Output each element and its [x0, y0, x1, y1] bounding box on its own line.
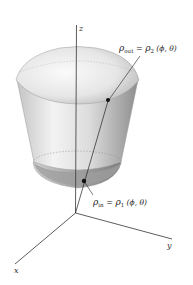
outer-point — [106, 98, 110, 102]
rho-out-label: ρout = ρ2 (ϕ, θ) — [118, 43, 177, 54]
z-axis-label: z — [78, 24, 84, 33]
inner-point — [82, 179, 86, 183]
spherical-region-diagram: z x y ρout = ρ2 (ϕ, θ) ρin = ρ1 (ϕ, θ) — [0, 0, 193, 285]
x-axis — [15, 213, 76, 264]
y-axis — [76, 213, 173, 239]
rho-in-label: ρin = ρ1 (ϕ, θ) — [92, 197, 147, 208]
y-axis-label: y — [166, 241, 172, 250]
x-axis-label: x — [14, 266, 19, 275]
